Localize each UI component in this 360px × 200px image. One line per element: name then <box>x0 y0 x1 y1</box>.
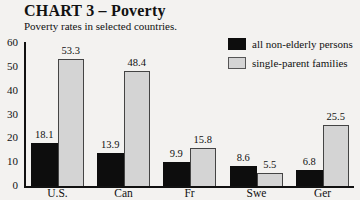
bar-value-label: 9.9 <box>159 148 193 159</box>
bar-fr-single-parent <box>190 148 217 186</box>
y-tick-label: 30 <box>0 108 18 120</box>
bar-us-non-elderly <box>31 143 58 186</box>
x-tick-label: Can <box>97 187 151 199</box>
y-axis <box>24 42 26 187</box>
bar-ger-non-elderly <box>296 170 323 186</box>
bar-value-label: 5.5 <box>253 159 287 170</box>
plot-area: 010203040506018.153.3U.S.13.948.4Can9.91… <box>0 0 360 200</box>
y-tick-label: 10 <box>0 155 18 167</box>
bar-value-label: 48.4 <box>120 57 154 68</box>
x-tick-label: U.S. <box>31 187 85 199</box>
x-tick-label: Fr <box>163 187 217 199</box>
bar-swe-single-parent <box>257 173 284 186</box>
y-tick-label: 50 <box>0 60 18 72</box>
y-tick-label: 40 <box>0 84 18 96</box>
bar-fr-non-elderly <box>163 162 190 186</box>
bar-value-label: 15.8 <box>186 134 220 145</box>
y-tick-label: 20 <box>0 131 18 143</box>
bar-can-single-parent <box>124 71 151 186</box>
bar-us-single-parent <box>58 59 85 186</box>
bar-value-label: 18.1 <box>27 129 61 140</box>
bar-value-label: 13.9 <box>93 139 127 150</box>
bar-ger-single-parent <box>323 125 350 186</box>
bar-can-non-elderly <box>97 153 124 186</box>
bar-value-label: 25.5 <box>319 111 353 122</box>
x-tick-label: Swe <box>230 187 284 199</box>
y-tick-label: 60 <box>0 36 18 48</box>
y-tick-label: 0 <box>0 179 18 191</box>
bar-value-label: 6.8 <box>292 156 326 167</box>
x-tick-label: Ger <box>296 187 350 199</box>
bar-value-label: 53.3 <box>54 45 88 56</box>
